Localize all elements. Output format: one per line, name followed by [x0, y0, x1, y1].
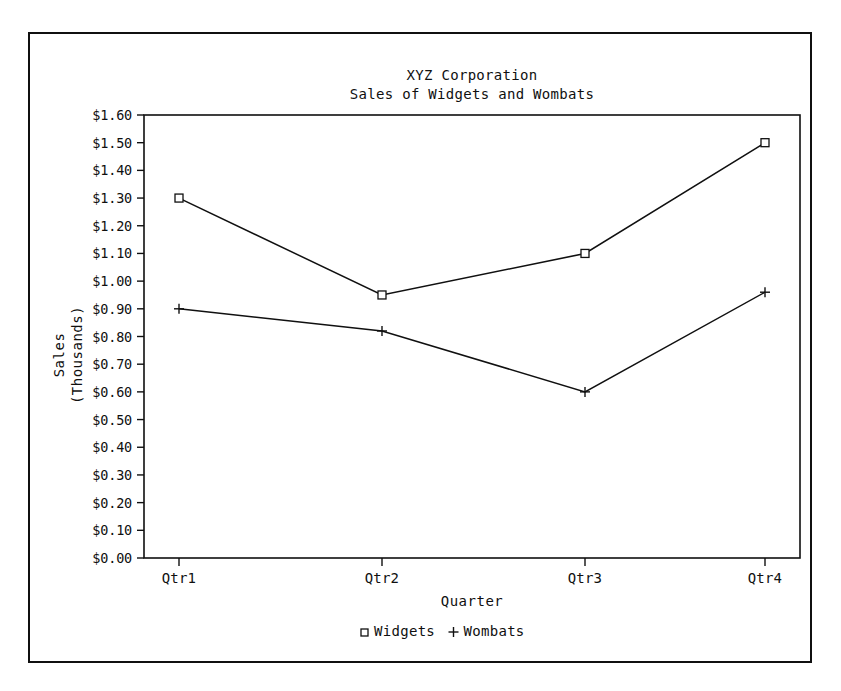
x-tick-label: Qtr4 [748, 570, 783, 586]
data-point-marker-square [175, 194, 183, 202]
y-tick-label: $0.90 [92, 301, 132, 317]
series-line-widgets [179, 143, 765, 295]
chart-titles: XYZ Corporation Sales of Widgets and Wom… [350, 67, 594, 102]
y-tick-label: $1.00 [92, 273, 132, 289]
legend-label-wombats: Wombats [464, 623, 525, 639]
y-tick-label: $1.50 [92, 135, 132, 151]
y-tick-label: $0.60 [92, 384, 132, 400]
chart-title: XYZ Corporation [407, 67, 538, 83]
y-tick-label: $0.40 [92, 439, 132, 455]
y-tick-label: $0.00 [92, 550, 132, 566]
y-axis-title-line1: Sales [51, 333, 67, 378]
x-tick-label: Qtr3 [568, 570, 603, 586]
y-tick-label: $0.50 [92, 412, 132, 428]
y-axis-ticks: $1.60$1.50$1.40$1.30$1.20$1.10$1.00$0.90… [92, 107, 144, 566]
x-axis-ticks: Qtr1Qtr2Qtr3Qtr4 [162, 558, 783, 586]
y-tick-label: $0.20 [92, 495, 132, 511]
legend-label-widgets: Widgets [374, 623, 435, 639]
data-point-marker-square [378, 291, 386, 299]
y-tick-label: $0.30 [92, 467, 132, 483]
series-widgets [175, 139, 769, 299]
y-tick-label: $0.80 [92, 329, 132, 345]
y-tick-label: $1.10 [92, 245, 132, 261]
data-point-marker-square [581, 249, 589, 257]
x-tick-label: Qtr2 [365, 570, 400, 586]
y-tick-label: $1.30 [92, 190, 132, 206]
legend-marker-square [361, 629, 368, 636]
x-tick-label: Qtr1 [162, 570, 197, 586]
data-series-layer [174, 139, 770, 397]
series-line-wombats [179, 292, 765, 392]
data-point-marker-square [761, 139, 769, 147]
line-chart: XYZ Corporation Sales of Widgets and Wom… [0, 0, 841, 691]
chart-legend: WidgetsWombats [361, 623, 525, 639]
y-tick-label: $0.70 [92, 356, 132, 372]
y-tick-label: $1.40 [92, 162, 132, 178]
chart-subtitle: Sales of Widgets and Wombats [350, 86, 594, 102]
series-wombats [174, 287, 770, 397]
y-tick-label: $0.10 [92, 522, 132, 538]
x-axis-title: Quarter [441, 593, 504, 609]
y-tick-label: $1.60 [92, 107, 132, 123]
y-tick-label: $1.20 [92, 218, 132, 234]
y-axis-title: Sales (Thousands) [51, 306, 85, 404]
y-axis-title-line2: (Thousands) [69, 306, 85, 404]
